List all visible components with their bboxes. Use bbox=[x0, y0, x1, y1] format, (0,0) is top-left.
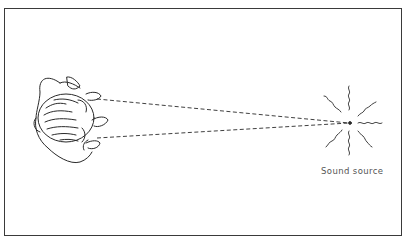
line-left-ear bbox=[97, 99, 349, 123]
line-right-ear bbox=[97, 123, 349, 138]
listener-figure bbox=[34, 77, 108, 163]
sound-source-label: Sound source bbox=[321, 166, 384, 176]
diagram-canvas bbox=[0, 0, 409, 243]
sight-lines bbox=[97, 99, 349, 138]
sound-source-icon bbox=[324, 86, 382, 155]
